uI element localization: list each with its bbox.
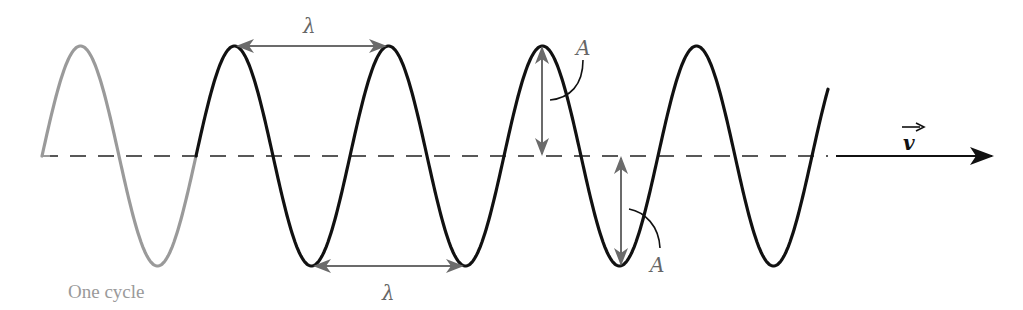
wave-curve [196, 46, 828, 266]
amplitude-label-bottom: A [650, 255, 664, 275]
velocity-label: v [903, 133, 915, 153]
wave-diagram-svg [0, 0, 1023, 310]
one-cycle-label: One cycle [68, 282, 144, 301]
wavelength-label-bottom: λ [382, 283, 395, 303]
amplitude-leader-top [550, 60, 583, 100]
wave-diagram: λ λ A A One cycle v [0, 0, 1023, 310]
wavelength-label-top: λ [303, 16, 316, 36]
amplitude-label-top: A [576, 38, 590, 58]
first-cycle-wave [42, 46, 196, 266]
vector-arrow-icon [900, 122, 926, 132]
